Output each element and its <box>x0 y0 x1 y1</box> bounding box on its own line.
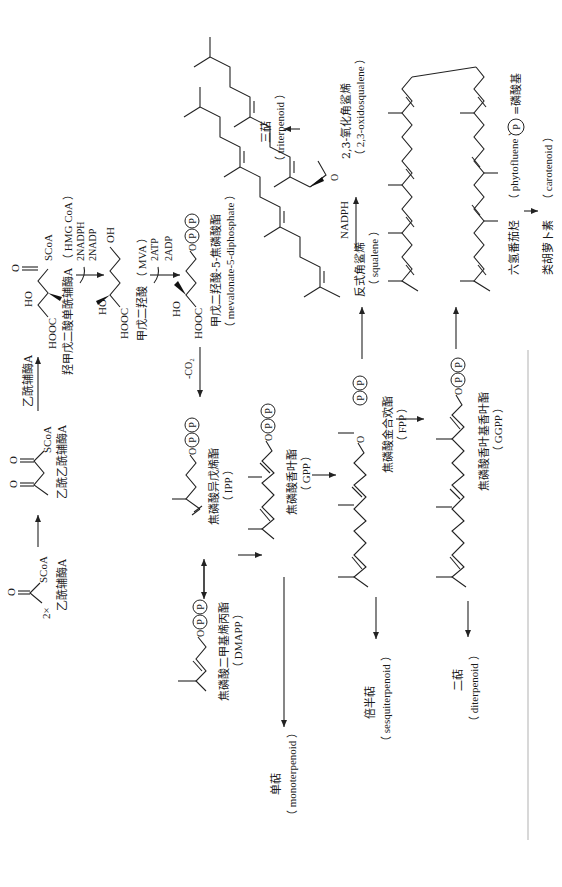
legend-symbol: P <box>511 124 522 130</box>
diterpenoid-en-label: （ diterpenoid ） <box>468 649 480 727</box>
adp-out-label: 2ADP <box>163 236 174 261</box>
oh-label: OH <box>104 227 116 243</box>
gpp-en-label: （ GPP ） <box>300 450 312 497</box>
carbonyl-o: O <box>9 264 21 272</box>
carbonyl-o: O <box>5 588 17 596</box>
mvapp-cn-label: 甲戊二羟酸-5-焦磷酸酯 <box>209 214 223 327</box>
phytofluene-structure <box>388 67 498 291</box>
phytofluene-cn-label: 六氢番茄烃 <box>507 220 521 275</box>
hmg-coa-structure: HOOC HO O SCoA <box>9 234 62 349</box>
acetyl-coa-structure: O SCoA <box>5 556 49 603</box>
gpp-structure: O P P <box>248 404 275 539</box>
acetyl-coa-label: 乙酰辅酶A <box>55 558 69 611</box>
nadph-in-label: 2NADPH <box>75 222 86 261</box>
rotated-content: 2× O SCoA 乙酰辅酶A O O SCoA 乙酰乙酰辅酶A 乙酰辅酶A H… <box>5 37 555 821</box>
carbonyl-o: O <box>7 480 19 488</box>
scoa-label: SCoA <box>42 234 54 261</box>
atp-in-label: 2ATP <box>149 238 160 261</box>
phosphate-symbol: P <box>187 422 198 428</box>
triterpenoid-en-label: （ triterpenoid ） <box>274 88 286 167</box>
fpp-structure: O P P <box>338 376 368 587</box>
squalene-structure <box>184 87 340 297</box>
gpp-cn-label: 焦磷酸香叶酯 <box>285 449 299 515</box>
carotenoid-cn-label: 类胡萝卜素 <box>541 220 555 275</box>
sesquiterpenoid-en-label: （ sesquiterpenoid ） <box>380 650 392 747</box>
oxygen-label: O <box>263 434 274 441</box>
oxygen-label: O <box>187 244 198 251</box>
scoa-label: SCoA <box>41 426 53 453</box>
fpp-cn-label: 焦磷酸金合欢酯 <box>381 396 395 473</box>
terpenoid-pathway-diagram: 2× O SCoA 乙酰辅酶A O O SCoA 乙酰乙酰辅酶A 乙酰辅酶A H… <box>0 0 562 887</box>
scoa-label: SCoA <box>37 556 49 583</box>
acetylcoa-step-label: 乙酰辅酶A <box>21 354 35 407</box>
phosphate-symbol: P <box>263 408 274 414</box>
oxygen-label: O <box>355 436 366 443</box>
phosphate-symbol: P <box>195 604 206 610</box>
mva-en-label: （ MVA ） <box>136 232 148 283</box>
mvapp-structure: HOOC HO O P P <box>170 214 204 339</box>
legend-meaning: =磷酸基 <box>509 73 523 115</box>
oxygen-label: O <box>453 388 464 395</box>
mva-cn-label: 甲戊二羟酸 <box>135 286 149 341</box>
acetoacetyl-coa-structure: O O SCoA <box>7 426 53 495</box>
oxygen-label: O <box>195 630 206 637</box>
co2-label: -CO₂ <box>183 358 194 379</box>
dmapp-cn-label: 焦磷酸二甲基烯丙酯 <box>217 602 231 701</box>
phosphate-symbol: P <box>453 377 464 383</box>
ipp-cn-label: 焦磷酸异戊烯酯 <box>207 448 221 525</box>
dmapp-en-label: （ DMAPP ） <box>232 608 244 673</box>
phosphate-symbol: P <box>187 218 198 224</box>
phosphate-symbol: P <box>453 362 464 368</box>
ggpp-cn-label: 焦磷酸香叶基香叶酯 <box>477 392 491 491</box>
hooc-label: HOOC <box>192 308 204 339</box>
phosphate-symbol: P <box>355 380 366 386</box>
mvapp-en-label: （ mevalonate-5-diphosphate ） <box>224 189 236 333</box>
fpp-en-label: （ FPP ） <box>396 402 408 447</box>
ho-label: HO <box>22 291 34 307</box>
hmg-coa-en-label: （ HMG CoA ） <box>62 189 74 265</box>
carbonyl-o: O <box>7 456 19 464</box>
dmapp-structure: O P P <box>178 600 207 691</box>
oxidosqualene-en-label: （ 2,3-oxidosqualene ） <box>354 53 366 161</box>
hooc-label: HOOC <box>118 308 130 339</box>
multiplier-label: 2× <box>40 607 52 619</box>
carotenoid-en-label: （ carotenoid ） <box>542 131 554 205</box>
ipp-en-label: （ IPP ） <box>222 464 234 507</box>
sesquiterpenoid-cn-label: 倍半萜 <box>363 686 377 719</box>
oxidosqualene-cn-label: 2,3-氧化角鲨烯 <box>339 83 353 159</box>
triterpenoid-cn-label: 三萜 <box>260 121 273 143</box>
diterpenoid-cn-label: 二萜 <box>452 669 465 691</box>
ggpp-structure: O P P <box>436 358 466 587</box>
phosphate-symbol: P <box>355 395 366 401</box>
phosphate-symbol: P <box>187 437 198 443</box>
monoterpenoid-cn-label: 单萜 <box>270 773 283 795</box>
phosphate-symbol: P <box>187 233 198 239</box>
nadph-label: NADPH <box>338 201 350 239</box>
ho-label: HO <box>170 301 182 317</box>
epoxide-oxygen: O <box>329 174 340 181</box>
nadp-out-label: 2NADP <box>87 228 98 261</box>
acetoacetyl-coa-label: 乙酰乙酰辅酶A <box>55 424 69 499</box>
mva-structure: HOOC HO OH <box>96 227 130 339</box>
ho-label: HO <box>96 299 108 315</box>
ipp-structure: O P P <box>172 418 202 515</box>
hmg-coa-cn-label: 羟甲戊二酸单酰辅酶A <box>61 267 75 375</box>
hooc-label: HOOC <box>46 318 58 349</box>
squalene-en-label: （ squalene ） <box>368 225 380 291</box>
phosphate-symbol: P <box>263 423 274 429</box>
monoterpenoid-en-label: （ monoterpenoid ） <box>286 727 298 821</box>
phosphate-symbol: P <box>195 619 206 625</box>
legend: P =磷酸基 <box>508 73 524 135</box>
oxidosqualene-structure: O <box>194 37 340 187</box>
phytofluene-en-label: （ phytofluene ） <box>508 125 520 205</box>
ggpp-en-label: （ GGPP ） <box>492 402 504 457</box>
oxygen-label: O <box>187 448 198 455</box>
